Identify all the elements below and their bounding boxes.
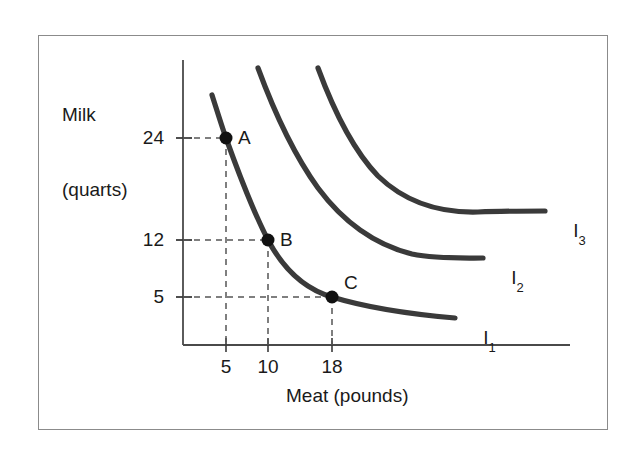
y-axis-title-line2: (quarts) bbox=[62, 177, 127, 202]
data-point-B[interactable] bbox=[262, 234, 275, 247]
curve-label-I1-subscript: 1 bbox=[488, 340, 495, 355]
y-tick-label-12: 12 bbox=[118, 229, 164, 251]
curve-label-I3-subscript: 3 bbox=[578, 233, 585, 248]
point-label-C: C bbox=[344, 272, 358, 294]
point-label-B: B bbox=[280, 229, 293, 251]
curve-label-I1: I1 bbox=[462, 305, 496, 374]
x-tick-label-18: 18 bbox=[316, 356, 348, 378]
x-axis-title: Meat (pounds) bbox=[286, 385, 409, 407]
y-tick-label-5: 5 bbox=[118, 286, 164, 308]
curve-label-I2-subscript: 2 bbox=[516, 280, 523, 295]
y-tick-label-24: 24 bbox=[118, 127, 164, 149]
curve-label-I3: I3 bbox=[552, 198, 586, 267]
data-point-A[interactable] bbox=[220, 132, 233, 145]
data-point-C[interactable] bbox=[326, 291, 339, 304]
y-axis-title: Milk (quarts) bbox=[62, 52, 127, 252]
figure-root: Milk (quarts) Meat (pounds) 24 12 5 5 10… bbox=[0, 0, 640, 456]
curve-label-I2: I2 bbox=[490, 245, 524, 314]
point-label-A: A bbox=[238, 127, 251, 149]
x-tick-label-10: 10 bbox=[252, 356, 284, 378]
x-tick-label-5: 5 bbox=[210, 356, 242, 378]
y-axis-title-line1: Milk bbox=[62, 102, 127, 127]
